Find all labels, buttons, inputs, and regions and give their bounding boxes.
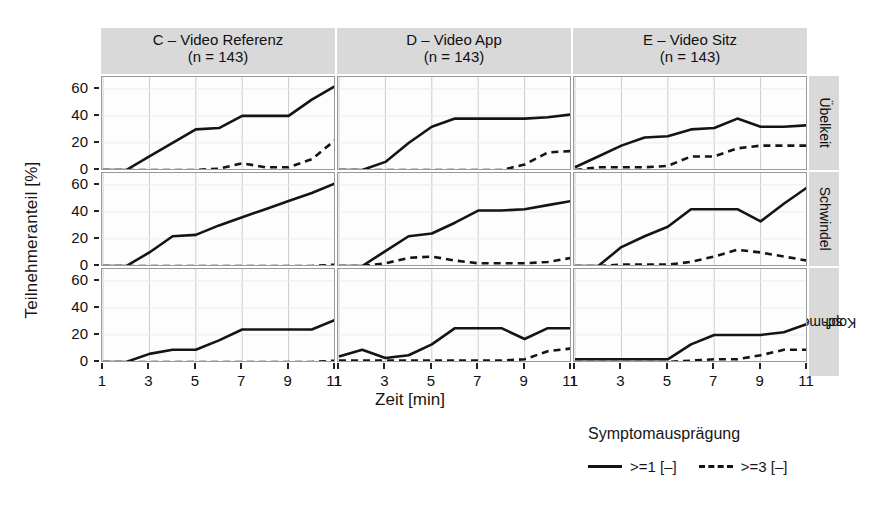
row-strip-uebelkeit: Übelkeit: [809, 76, 839, 170]
panel-c-schwindel: [101, 172, 335, 266]
legend-key-dashed-icon: [699, 465, 733, 468]
y-tick-mark: [94, 333, 99, 335]
y-tick-mark: [94, 141, 99, 143]
x-tick-mark: [569, 363, 571, 369]
legend-title: Symptomausprägung: [588, 425, 740, 443]
y-tick-mark: [94, 360, 99, 362]
y-tick-label: 60: [50, 79, 88, 96]
x-tick-mark: [712, 363, 714, 369]
column-strip-C-line2: (n = 143): [101, 49, 335, 66]
x-tick-label: 5: [657, 372, 677, 389]
y-tick-label: 20: [50, 229, 88, 246]
x-tick-mark: [523, 363, 525, 369]
row-strip-kopfschmerzen-label: Kopf- schmerzen: [801, 288, 847, 356]
panel-d-kopfschmerzen: [337, 268, 571, 362]
x-tick-mark: [383, 363, 385, 369]
panel-e-kopfschmerzen: [573, 268, 807, 362]
x-tick-mark: [619, 363, 621, 369]
y-tick-label: 20: [50, 325, 88, 342]
legend-label-ge1: >=1 [–]: [630, 458, 677, 475]
y-tick-mark: [94, 87, 99, 89]
y-tick-mark: [94, 279, 99, 281]
panel-d-schwindel: [337, 172, 571, 266]
y-tick-label: 0: [50, 352, 88, 369]
x-tick-label: 7: [231, 372, 251, 389]
x-tick-mark: [759, 363, 761, 369]
x-tick-mark: [430, 363, 432, 369]
figure-root: Teilnehmeranteil [%] Zeit [min] C – Vide…: [0, 0, 876, 509]
y-tick-mark: [94, 237, 99, 239]
x-tick-mark: [476, 363, 478, 369]
row-strip-schwindel: Schwindel: [809, 172, 839, 266]
y-tick-label: 60: [50, 175, 88, 192]
row-strip-schwindel-label: Schwindel: [816, 187, 831, 251]
y-tick-label: 60: [50, 271, 88, 288]
column-strip-E-line1: E – Video Sitz: [573, 32, 807, 49]
x-tick-mark: [666, 363, 668, 369]
panel-d-uebelkeit: [337, 76, 571, 170]
y-tick-label: 40: [50, 202, 88, 219]
y-tick-label: 40: [50, 106, 88, 123]
x-tick-mark: [287, 363, 289, 369]
column-strip-D-line2: (n = 143): [337, 49, 571, 66]
x-tick-mark: [194, 363, 196, 369]
x-tick-mark: [333, 363, 335, 369]
legend-key-solid-icon: [588, 465, 622, 468]
x-tick-mark: [147, 363, 149, 369]
panel-e-schwindel: [573, 172, 807, 266]
y-tick-mark: [94, 210, 99, 212]
x-tick-label: 1: [328, 372, 348, 389]
x-tick-label: 11: [796, 372, 816, 389]
legend-entries: >=1 [–] >=3 [–]: [588, 458, 787, 475]
x-tick-mark: [240, 363, 242, 369]
column-strip-C: C – Video Referenz (n = 143): [101, 28, 335, 74]
panel-e-uebelkeit: [573, 76, 807, 170]
x-tick-mark: [101, 363, 103, 369]
y-tick-mark: [94, 264, 99, 266]
x-tick-label: 9: [514, 372, 534, 389]
x-tick-label: 9: [278, 372, 298, 389]
panel-c-uebelkeit: [101, 76, 335, 170]
y-tick-label: 20: [50, 133, 88, 150]
x-axis-title: Zeit [min]: [70, 390, 750, 410]
x-tick-mark: [805, 363, 807, 369]
x-tick-label: 3: [610, 372, 630, 389]
x-tick-label: 5: [421, 372, 441, 389]
x-tick-label: 3: [138, 372, 158, 389]
panel-c-kopfschmerzen: [101, 268, 335, 362]
x-tick-label: 7: [703, 372, 723, 389]
column-strip-D-line1: D – Video App: [337, 32, 571, 49]
x-tick-label: 1: [564, 372, 584, 389]
y-tick-label: 40: [50, 298, 88, 315]
y-tick-mark: [94, 306, 99, 308]
row-strip-kopfschmerzen: Kopf- schmerzen: [809, 268, 839, 376]
column-strip-E-line2: (n = 143): [573, 49, 807, 66]
x-tick-label: 3: [374, 372, 394, 389]
y-tick-mark: [94, 114, 99, 116]
y-tick-mark: [94, 183, 99, 185]
column-strip-C-line1: C – Video Referenz: [101, 32, 335, 49]
x-tick-mark: [573, 363, 575, 369]
legend-label-ge3: >=3 [–]: [741, 458, 788, 475]
y-axis-title: Teilnehmeranteil [%]: [22, 0, 44, 95]
x-tick-label: 5: [185, 372, 205, 389]
x-tick-mark: [337, 363, 339, 369]
column-strip-E: E – Video Sitz (n = 143): [573, 28, 807, 74]
x-tick-label: 9: [750, 372, 770, 389]
y-tick-mark: [94, 168, 99, 170]
x-tick-label: 7: [467, 372, 487, 389]
x-tick-label: 1: [92, 372, 112, 389]
column-strip-D: D – Video App (n = 143): [337, 28, 571, 74]
y-axis-title-text: Teilnehmeranteil [%]: [22, 95, 42, 385]
row-strip-uebelkeit-label: Übelkeit: [816, 98, 831, 149]
